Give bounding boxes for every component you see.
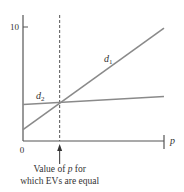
axes: 10 0 p — [10, 15, 175, 155]
y-tick-label-10: 10 — [10, 22, 20, 32]
x-axis-label: p — [169, 135, 175, 146]
chart: 10 0 p d1 d2 Value of p for which EVs ar… — [0, 0, 184, 192]
annotation-arrow-head-icon — [57, 144, 62, 151]
annotation: Value of p for which EVs are equal — [20, 144, 99, 186]
series-label-d2: d2 — [36, 90, 45, 103]
series-line-d1 — [23, 28, 164, 129]
x-tick-label-0: 0 — [20, 145, 25, 155]
annotation-line-2: which EVs are equal — [20, 176, 99, 186]
annotation-line-1: Value of p for — [33, 164, 86, 174]
series-label-d1: d1 — [104, 53, 113, 66]
